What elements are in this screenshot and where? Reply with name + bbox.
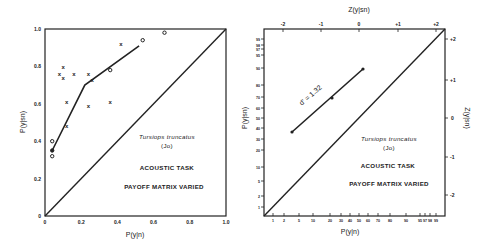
svg-text:20: 20 bbox=[256, 149, 260, 153]
svg-text:x: x bbox=[61, 75, 65, 81]
right-point bbox=[361, 67, 364, 70]
svg-text:98: 98 bbox=[428, 219, 432, 223]
right-left-prob-labels: 1 2 5 10 20 30 40 50 60 70 80 90 95 97 9… bbox=[256, 38, 260, 210]
svg-text:5: 5 bbox=[258, 180, 260, 184]
svg-text:x: x bbox=[65, 123, 69, 129]
dprime-label: d' = 1.32 bbox=[298, 84, 323, 107]
svg-text:50: 50 bbox=[357, 219, 361, 223]
left-x-markers: x x x x x x x x x x x bbox=[58, 41, 124, 129]
svg-text:0: 0 bbox=[38, 213, 41, 219]
right-chart: d' = 1.32 -2 -1 0 +1 +2 Z(y|sn) +2 +1 0 … bbox=[241, 6, 471, 236]
svg-text:x: x bbox=[72, 71, 76, 77]
svg-text:x: x bbox=[119, 41, 123, 47]
svg-text:+1: +1 bbox=[450, 77, 456, 83]
left-subject: (Jo) bbox=[161, 142, 173, 149]
svg-text:0.2: 0.2 bbox=[34, 176, 41, 182]
svg-text:0.8: 0.8 bbox=[186, 219, 193, 225]
svg-text:10: 10 bbox=[311, 219, 315, 223]
svg-text:+2: +2 bbox=[450, 36, 456, 42]
svg-text:1: 1 bbox=[258, 206, 260, 210]
svg-text:98: 98 bbox=[256, 44, 260, 48]
svg-text:5: 5 bbox=[298, 219, 300, 223]
svg-text:0: 0 bbox=[44, 219, 47, 225]
right-side-label: Z(y|sn) bbox=[463, 107, 471, 129]
svg-text:-1: -1 bbox=[450, 154, 455, 160]
right-bottom-prob-labels: 1 2 5 10 20 30 40 50 60 70 80 90 95 97 9… bbox=[272, 219, 438, 223]
svg-text:95: 95 bbox=[256, 54, 260, 58]
left-x-axis: 0 0.2 0.4 0.6 0.8 1.0 P(y|n) bbox=[44, 219, 230, 239]
right-top-label: Z(y|sn) bbox=[348, 6, 370, 14]
left-y-axis: 0 0.2 0.4 0.6 0.8 1.0 P(y|sn) bbox=[19, 26, 41, 219]
svg-text:0: 0 bbox=[358, 21, 361, 27]
svg-text:80: 80 bbox=[388, 219, 392, 223]
figure: x x x x x x x x x x x 0 0.2 0.4 0.6 0 bbox=[0, 0, 485, 251]
svg-text:70: 70 bbox=[256, 96, 260, 100]
svg-text:0.4: 0.4 bbox=[114, 219, 121, 225]
svg-text:+2: +2 bbox=[433, 21, 439, 27]
svg-text:99: 99 bbox=[434, 219, 438, 223]
svg-text:2: 2 bbox=[283, 219, 285, 223]
right-chance-diagonal bbox=[264, 29, 445, 216]
svg-text:80: 80 bbox=[256, 84, 260, 88]
right-condition: PAYOFF MATRIX VARIED bbox=[349, 180, 429, 187]
svg-text:60: 60 bbox=[256, 107, 260, 111]
svg-text:0.2: 0.2 bbox=[78, 219, 85, 225]
left-y-label: P(y|sn) bbox=[19, 111, 27, 133]
right-point bbox=[330, 96, 333, 99]
left-condition: PAYOFF MATRIX VARIED bbox=[124, 183, 204, 190]
right-y-label: P(y|sn) bbox=[241, 107, 249, 129]
right-annotations: Tursiops truncatus (Jo) ACOUSTIC TASK PA… bbox=[349, 135, 429, 187]
svg-text:-2: -2 bbox=[281, 21, 286, 27]
svg-text:50: 50 bbox=[256, 117, 260, 121]
svg-text:0.6: 0.6 bbox=[150, 219, 157, 225]
right-subject: (Jo) bbox=[383, 144, 395, 151]
svg-text:x: x bbox=[109, 99, 113, 105]
svg-text:x: x bbox=[65, 99, 69, 105]
svg-text:99: 99 bbox=[256, 38, 260, 42]
svg-text:60: 60 bbox=[366, 219, 370, 223]
svg-text:1.0: 1.0 bbox=[34, 26, 41, 32]
left-task: ACOUSTIC TASK bbox=[140, 164, 195, 171]
svg-text:40: 40 bbox=[256, 127, 260, 131]
svg-text:0.6: 0.6 bbox=[34, 101, 41, 107]
svg-text:1.0: 1.0 bbox=[223, 219, 230, 225]
svg-text:40: 40 bbox=[348, 219, 352, 223]
svg-text:0: 0 bbox=[451, 115, 454, 121]
left-x-label: P(y|n) bbox=[126, 231, 145, 239]
svg-text:-1: -1 bbox=[319, 21, 324, 27]
svg-text:20: 20 bbox=[328, 219, 332, 223]
svg-text:30: 30 bbox=[256, 138, 260, 142]
svg-text:10: 10 bbox=[256, 166, 260, 170]
right-species: Tursiops truncatus bbox=[361, 135, 417, 142]
svg-text:97: 97 bbox=[256, 48, 260, 52]
right-task: ACOUSTIC TASK bbox=[361, 162, 416, 169]
svg-text:0.8: 0.8 bbox=[34, 63, 41, 69]
svg-text:30: 30 bbox=[339, 219, 343, 223]
svg-text:70: 70 bbox=[376, 219, 380, 223]
svg-text:1: 1 bbox=[272, 219, 274, 223]
svg-text:+1: +1 bbox=[395, 21, 401, 27]
svg-text:x: x bbox=[87, 103, 91, 109]
right-point bbox=[290, 130, 293, 133]
left-chart: x x x x x x x x x x x 0 0.2 0.4 0.6 0 bbox=[19, 26, 230, 239]
svg-text:2: 2 bbox=[258, 195, 260, 199]
right-x-label: P(y|n) bbox=[341, 228, 360, 236]
svg-text:-2: -2 bbox=[450, 192, 455, 198]
left-species: Tursiops truncatus bbox=[139, 133, 195, 140]
svg-text:90: 90 bbox=[404, 219, 408, 223]
svg-text:97: 97 bbox=[423, 219, 427, 223]
svg-text:x: x bbox=[61, 64, 65, 70]
svg-text:95: 95 bbox=[418, 219, 422, 223]
svg-text:0.4: 0.4 bbox=[34, 138, 41, 144]
left-annotations: Tursiops truncatus (Jo) ACOUSTIC TASK PA… bbox=[124, 133, 204, 190]
svg-text:90: 90 bbox=[256, 67, 260, 71]
